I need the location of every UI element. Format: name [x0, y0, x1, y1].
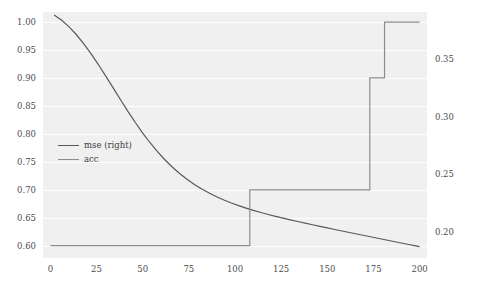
y-tick-left-0.85: 0.85: [2, 101, 36, 111]
y-tick-left-0.95: 0.95: [2, 45, 36, 55]
series-layer: [43, 12, 427, 258]
x-tick-125: 125: [261, 264, 301, 274]
y-tick-right-0.35: 0.35: [435, 54, 475, 64]
x-tick-150: 150: [307, 264, 347, 274]
chart-legend: mse (right)acc: [58, 140, 132, 165]
series-line-mse-right: [54, 15, 420, 247]
x-tick-50: 50: [123, 264, 163, 274]
x-tick-175: 175: [353, 264, 393, 274]
legend-label: acc: [84, 154, 99, 165]
chart-figure: 0.600.650.700.750.800.850.900.951.00 0.2…: [0, 0, 485, 290]
y-tick-left-0.90: 0.90: [2, 73, 36, 83]
y-tick-left-1.00: 1.00: [2, 17, 36, 27]
x-tick-100: 100: [215, 264, 255, 274]
plot-area: [43, 12, 427, 258]
y-tick-left-0.65: 0.65: [2, 213, 36, 223]
y-tick-right-0.25: 0.25: [435, 169, 475, 179]
legend-swatch-icon: [58, 145, 79, 146]
series-line-acc: [50, 22, 419, 246]
legend-item-mse-right[interactable]: mse (right): [58, 140, 132, 151]
y-tick-right-0.20: 0.20: [435, 227, 475, 237]
x-tick-25: 25: [77, 264, 117, 274]
legend-label: mse (right): [84, 140, 132, 151]
x-tick-0: 0: [30, 264, 70, 274]
y-tick-left-0.70: 0.70: [2, 185, 36, 195]
y-tick-right-0.30: 0.30: [435, 112, 475, 122]
legend-swatch-icon: [58, 159, 79, 160]
y-tick-left-0.75: 0.75: [2, 157, 36, 167]
y-tick-left-0.60: 0.60: [2, 241, 36, 251]
x-tick-75: 75: [169, 264, 209, 274]
legend-item-acc[interactable]: acc: [58, 154, 132, 165]
y-tick-left-0.80: 0.80: [2, 129, 36, 139]
x-tick-200: 200: [400, 264, 440, 274]
